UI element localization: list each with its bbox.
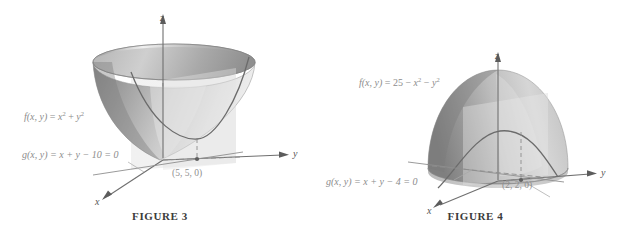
figure-3-constraint-label: g(x, y) = x + y − 10 = 0 xyxy=(22,150,118,160)
figure-3-z-axis-label: z xyxy=(160,12,164,23)
y-exponent: 2 xyxy=(436,76,439,83)
y-exponent: 2 xyxy=(81,110,84,117)
figure-3: f(x, y) = x2 + y2 g(x, y) = x + y − 10 =… xyxy=(0,0,320,240)
figure-4-point-label: (2, 2, 0) xyxy=(502,180,532,190)
figure-pair-page: f(x, y) = x2 + y2 g(x, y) = x + y − 10 =… xyxy=(0,0,631,240)
equals-sign: = xyxy=(382,77,393,88)
figure-4-graphic xyxy=(320,0,631,240)
figure-4-constraint-label: g(x, y) = x + y − 4 = 0 xyxy=(326,177,417,187)
constant-25: 25 xyxy=(393,77,403,88)
minus-sign-2: − xyxy=(421,77,432,88)
figure-3-point-label: (5, 5, 0) xyxy=(172,168,202,178)
f-arguments: (x, y) xyxy=(362,77,383,88)
figure-4-caption: FIGURE 4 xyxy=(320,210,631,222)
figure-3-x-axis-label: x xyxy=(95,196,99,207)
figure-3-caption: FIGURE 3 xyxy=(0,210,320,222)
f-arguments: (x, y) xyxy=(27,111,48,122)
plus-sign: + xyxy=(66,111,77,122)
figure-4-y-axis-label: y xyxy=(601,167,605,178)
figure-4-z-axis-label: z xyxy=(495,50,499,61)
minus-sign-1: − xyxy=(403,77,414,88)
figure-4: f(x, y) = 25 − x2 − y2 g(x, y) = x + y −… xyxy=(320,0,631,240)
figure-3-point-marker xyxy=(195,157,199,161)
figure-4-plane-front xyxy=(463,93,548,186)
equals-sign: = xyxy=(47,111,58,122)
figure-3-surface-label: f(x, y) = x2 + y2 xyxy=(24,112,84,122)
figure-4-surface-label: f(x, y) = 25 − x2 − y2 xyxy=(359,78,440,88)
figure-3-y-axis-label: y xyxy=(293,148,297,159)
